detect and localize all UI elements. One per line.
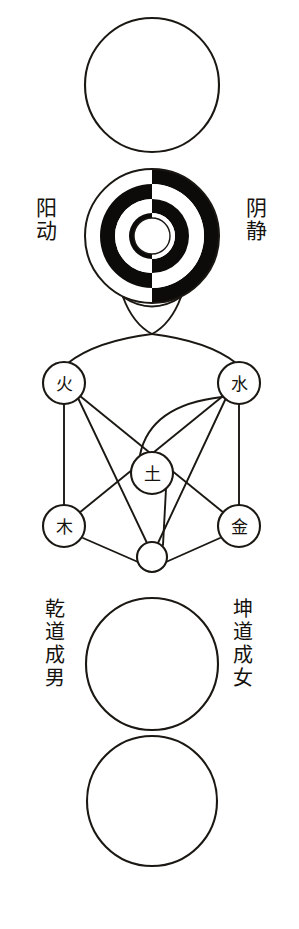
- edge-pendant-water-arc: [152, 334, 236, 363]
- taiji-diagram: 火 水 土 木 金: [0, 0, 299, 929]
- wuji-circle: [85, 18, 219, 152]
- edge-earth-hub: [163, 489, 166, 545]
- wuxing-node-metal[interactable]: 金: [218, 505, 260, 547]
- node-label-water: 水: [231, 374, 248, 394]
- wuxing-node-water[interactable]: 水: [218, 362, 260, 404]
- node-label-wood: 木: [56, 517, 73, 537]
- label-yang-dong: 阳动: [33, 197, 56, 243]
- wuxing-node-fire[interactable]: 火: [43, 362, 85, 404]
- edge-metal-hub: [166, 538, 220, 562]
- wuxing-node-wood[interactable]: 木: [43, 505, 85, 547]
- yinyang-ring-group: [85, 169, 219, 303]
- label-yin-jing: 阴静: [243, 197, 266, 243]
- wuxing-node-earth[interactable]: 土: [131, 452, 173, 494]
- wanwu-circle: [87, 736, 217, 866]
- wuxing-hub-circle: [137, 542, 167, 572]
- node-label-earth: 土: [144, 464, 161, 484]
- taiji-diagram-canvas: 火 水 土 木 金: [0, 0, 299, 929]
- wuxing-network: 火 水 土 木 金: [43, 334, 260, 572]
- label-kun-dao-cheng-nu: 坤道成女: [230, 598, 252, 690]
- qiankun-circle: [86, 598, 218, 730]
- edge-pendant-fire-arc: [68, 334, 152, 363]
- node-label-metal: 金: [231, 517, 248, 537]
- label-qian-dao-cheng-nan: 乾道成男: [42, 598, 64, 690]
- node-label-fire: 火: [56, 374, 73, 394]
- edge-wood-hub: [83, 538, 138, 562]
